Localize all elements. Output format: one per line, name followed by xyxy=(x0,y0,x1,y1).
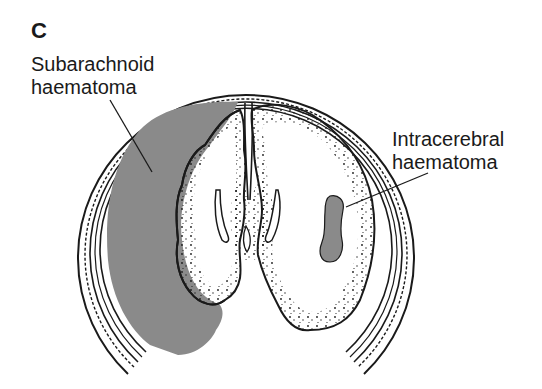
brain-cross-section-diagram xyxy=(0,0,542,389)
